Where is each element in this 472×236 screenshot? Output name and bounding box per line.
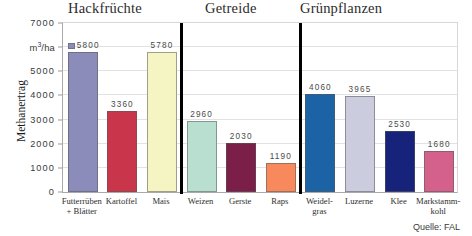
y-tick-1000: 1000 (30, 163, 55, 173)
group-header-gruenpflanzen: Grünpflanzen (300, 0, 382, 17)
group-separator (180, 23, 183, 194)
bar-value-label: 2530 (388, 120, 411, 129)
bar (147, 52, 177, 192)
bar-value-label: 2960 (190, 110, 213, 119)
y-tick-0: 0 (49, 187, 55, 197)
bar-column: 2960 (187, 21, 217, 192)
bar-value-label: 2030 (230, 132, 253, 141)
y-tick-4000: 4000 (30, 90, 55, 100)
x-axis-category-labels: Futterrüben+ BlätterKartoffelMaisWeizenG… (62, 196, 458, 236)
source-note: Quelle: FAL (413, 222, 460, 232)
bar-column: 5800 (68, 21, 98, 192)
bar-column: 5780 (147, 21, 177, 192)
bar-column: 4060 (305, 21, 335, 192)
bar-value-label: 3360 (111, 100, 134, 109)
bar-column: 2030 (226, 21, 256, 192)
bar (68, 52, 98, 192)
y-tick-3000: 3000 (30, 115, 55, 125)
bar (345, 96, 375, 192)
bar (226, 143, 256, 192)
plot-area: 5800336057802960203011904060396525301680 (62, 22, 458, 193)
bar (385, 131, 415, 192)
y-axis-tick-labels: 7000m3/ha500040003000200010000 (0, 22, 62, 193)
group-header-getreide: Getreide (205, 0, 257, 17)
bar (424, 151, 454, 192)
x-label-10: Markstamm-kohl (414, 196, 462, 216)
methane-yield-bar-chart: Hackfrüchte Getreide Grünpflanzen Methan… (0, 0, 472, 236)
y-tick-2000: 2000 (30, 139, 55, 149)
bar-column: 1680 (424, 21, 454, 192)
bar (305, 94, 335, 192)
bar-value-label: 5800 (68, 41, 100, 50)
bar-value-label: 5780 (151, 41, 174, 50)
bar-value-label: 3965 (349, 85, 372, 94)
y-axis-unit-label: m3/ha (29, 41, 55, 53)
group-header-row: Hackfrüchte Getreide Grünpflanzen (0, 0, 472, 20)
bar (187, 121, 217, 192)
bar-column: 3360 (107, 21, 137, 192)
bar-column: 2530 (385, 21, 415, 192)
group-separator (299, 23, 302, 194)
bar-column: 1190 (266, 21, 296, 192)
y-tick-5000: 5000 (30, 66, 55, 76)
bar-value-text: 5800 (77, 41, 100, 50)
bar-value-label: 1190 (270, 152, 292, 161)
legend-swatch-icon (68, 43, 75, 49)
bar (107, 111, 137, 192)
group-header-hackfruechte: Hackfrüchte (68, 0, 142, 17)
bar-value-label: 4060 (309, 83, 332, 92)
y-tick-7000: 7000 (30, 18, 55, 28)
bar (266, 163, 296, 192)
bar-column: 3965 (345, 21, 375, 192)
bar-value-label: 1680 (428, 140, 451, 149)
